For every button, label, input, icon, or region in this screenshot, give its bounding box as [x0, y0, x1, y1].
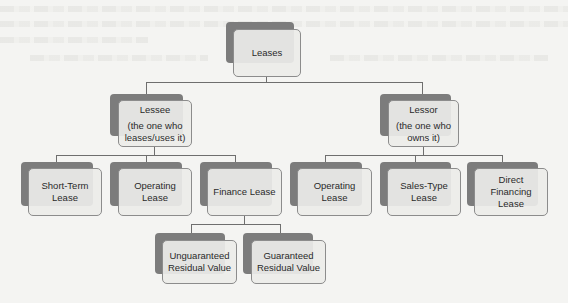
connector-residual-horizontal [191, 224, 281, 225]
node-label: Unguaranteed [169, 250, 229, 262]
node-label: Short-Term [42, 180, 89, 192]
node-sublabel: owns it) [407, 132, 440, 144]
node-sublabel: (the one who [128, 120, 183, 132]
connector-guaranteed-up [280, 224, 281, 233]
node-face: Guaranteed Residual Value [251, 240, 326, 284]
background-bleed-text [0, 6, 568, 12]
node-label: Residual Value [257, 262, 320, 274]
node-face: Leases [233, 29, 301, 77]
node-label: Finance Lease [213, 186, 275, 198]
node-label: Lease [411, 192, 437, 204]
connector-operating-lessee-up [146, 155, 147, 162]
node-face: Lessee (the one who leases/uses it) [118, 100, 192, 147]
node-label: Lease [52, 192, 78, 204]
node-label: Operating Lease [300, 180, 369, 204]
node-face: Operating Lease [297, 168, 372, 216]
node-label: Sales-Type [400, 180, 448, 192]
node-label: Residual Value [168, 262, 231, 274]
connector-level1-horizontal [146, 82, 423, 83]
connector-salestype-up [415, 155, 416, 162]
node-face: Lessor (the one who owns it) [388, 100, 459, 147]
node-label: Lessor [409, 104, 438, 116]
connector-lessee-up [146, 82, 147, 94]
node-sublabel: leases/uses it) [125, 132, 186, 144]
node-face: Unguaranteed Residual Value [162, 240, 237, 284]
node-label: Direct Financing [477, 174, 545, 198]
connector-lessee-down [154, 146, 155, 155]
connector-finance-up [235, 155, 236, 162]
connector-lessor-up [422, 82, 423, 94]
background-bleed-text [330, 55, 548, 61]
connector-directfinancing-up [502, 155, 503, 162]
node-label: Lessee [140, 104, 171, 116]
connector-lessor-down [423, 146, 424, 155]
node-label: Leases [252, 47, 283, 59]
node-face: Sales-Type Lease [387, 168, 461, 216]
connector-unguaranteed-up [191, 224, 192, 233]
node-face: Short-Term Lease [28, 168, 102, 216]
connector-lessor-children-horizontal [325, 155, 503, 156]
node-face: Finance Lease [207, 168, 282, 216]
node-sublabel: (the one who [396, 120, 451, 132]
connector-shortterm-up [56, 155, 57, 162]
connector-finance-down [244, 215, 245, 224]
connector-operating-lessor-up [325, 155, 326, 162]
background-bleed-text [0, 37, 148, 43]
node-label: Guaranteed [263, 250, 313, 262]
node-label: Lease [498, 198, 524, 210]
node-label: Operating Lease [121, 180, 189, 204]
node-face: Direct Financing Lease [474, 168, 548, 216]
background-bleed-text [30, 55, 208, 61]
node-face: Operating Lease [118, 168, 192, 216]
